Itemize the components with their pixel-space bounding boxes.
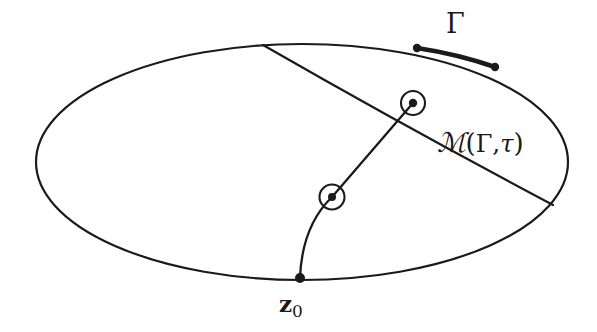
circled-point-lower-dot [328,193,336,201]
base-point-label-subscript: 0 [292,301,302,321]
gamma-end-dot [491,63,499,71]
manifold-label-gamma: Γ [476,130,493,158]
base-point-dot [295,273,305,283]
base-point-label-letter: z [279,290,292,317]
manifold-label-open-paren: ( [466,128,476,158]
manifold-label-script-m: ℳ [437,127,466,158]
circled-point-upper-dot [409,99,417,107]
manifold-label-close-paren: ) [514,128,524,158]
figure-container: Γ ℳ(Γ,τ) z0 [0,0,597,332]
manifold-curve [263,45,553,205]
manifold-label-tau: τ [500,130,513,158]
manifold-label: ℳ(Γ,τ) [437,129,524,156]
base-path-upper-segment [332,103,413,197]
domain-ellipse-boundary [36,44,568,280]
gamma-label: Γ [446,10,465,37]
base-point-label: z0 [279,292,302,320]
gamma-start-dot [413,44,421,52]
diagram-canvas [0,0,597,332]
